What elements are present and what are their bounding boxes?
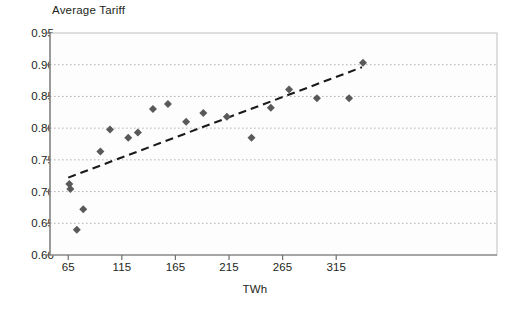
- chart-container: Average Tariff TWh 0.600.650.700.750.800…: [0, 0, 510, 311]
- plot-svg: [0, 0, 510, 311]
- plot-background: [50, 33, 497, 255]
